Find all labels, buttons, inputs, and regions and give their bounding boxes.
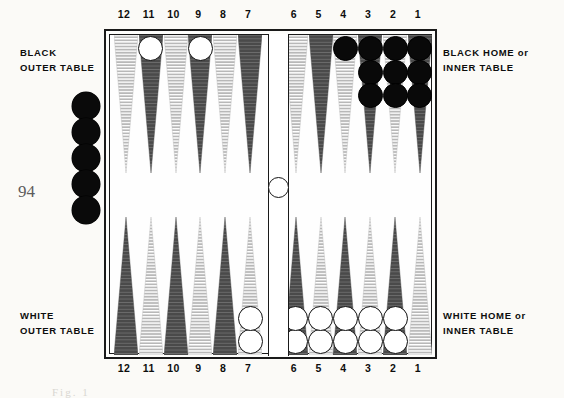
point-number-10: 10 — [165, 8, 183, 20]
bar-checker-white[interactable] — [268, 177, 289, 198]
point-number-11: 11 — [140, 362, 158, 374]
figure-caption-remnant: Fig. 1 — [52, 386, 90, 398]
backgammon-board — [104, 29, 437, 359]
checker-black-point-4[interactable] — [333, 36, 358, 61]
checker-black-point-3[interactable] — [358, 60, 383, 85]
point-number-6: 6 — [285, 362, 303, 374]
checker-black-point-3[interactable] — [358, 36, 383, 61]
label-black-home-table: BLACK HOME or INNER TABLE — [443, 45, 529, 75]
point-number-3: 3 — [359, 8, 377, 20]
point-number-7: 7 — [239, 8, 257, 20]
checker-white-point-4[interactable] — [333, 306, 358, 331]
point-number-7: 7 — [239, 362, 257, 374]
checker-white-point-3[interactable] — [358, 329, 383, 354]
label-white-home-line1: WHITE HOME or — [443, 310, 526, 321]
checker-white-point-2[interactable] — [383, 306, 408, 331]
point-top-10[interactable] — [164, 35, 188, 173]
point-bottom-8[interactable] — [213, 217, 237, 355]
checker-white-point-3[interactable] — [358, 306, 383, 331]
point-top-7[interactable] — [238, 35, 262, 173]
checker-white-point-7[interactable] — [238, 306, 263, 331]
checker-black-point-2[interactable] — [383, 60, 408, 85]
point-number-1: 1 — [409, 362, 427, 374]
point-number-12: 12 — [115, 362, 133, 374]
point-number-2: 2 — [384, 8, 402, 20]
point-number-8: 8 — [214, 362, 232, 374]
checker-white-point-5[interactable] — [308, 329, 333, 354]
point-number-4: 4 — [334, 8, 352, 20]
checker-black-point-3[interactable] — [358, 83, 383, 108]
point-number-5: 5 — [310, 8, 328, 20]
label-white-outer-table: WHITE OUTER TABLE — [20, 308, 95, 338]
point-number-4: 4 — [334, 362, 352, 374]
backgammon-diagram-page: BLACK OUTER TABLE WHITE OUTER TABLE BLAC… — [0, 0, 564, 398]
checker-white-point-9[interactable] — [188, 36, 213, 61]
point-bottom-9[interactable] — [188, 217, 212, 355]
label-black-home-line2: INNER TABLE — [443, 60, 529, 75]
label-white-outer-line1: WHITE — [20, 310, 54, 321]
label-black-outer-table: BLACK OUTER TABLE — [20, 45, 95, 75]
label-white-home-table: WHITE HOME or INNER TABLE — [443, 308, 526, 338]
point-number-8: 8 — [214, 8, 232, 20]
checker-black-point-2[interactable] — [383, 36, 408, 61]
point-bottom-10[interactable] — [164, 217, 188, 355]
offboard-checker-black[interactable] — [72, 196, 100, 224]
label-black-outer-line2: OUTER TABLE — [20, 60, 95, 75]
checker-white-point-5[interactable] — [308, 306, 333, 331]
point-number-rail-top: 121110987654321 — [0, 8, 564, 22]
page-number: 94 — [18, 182, 35, 202]
point-number-10: 10 — [165, 362, 183, 374]
point-top-5[interactable] — [309, 35, 333, 173]
label-black-outer-line1: BLACK — [20, 47, 57, 58]
offboard-checker-black[interactable] — [72, 92, 100, 120]
checker-white-point-4[interactable] — [333, 329, 358, 354]
point-top-12[interactable] — [114, 35, 138, 173]
point-number-1: 1 — [409, 8, 427, 20]
checker-black-point-1[interactable] — [407, 60, 432, 85]
board-playing-surface — [109, 34, 432, 354]
point-number-12: 12 — [115, 8, 133, 20]
offboard-checker-black[interactable] — [72, 118, 100, 146]
offboard-checker-black[interactable] — [72, 170, 100, 198]
point-top-8[interactable] — [213, 35, 237, 173]
checker-black-point-2[interactable] — [383, 83, 408, 108]
point-bottom-1[interactable] — [408, 217, 432, 355]
point-number-5: 5 — [310, 362, 328, 374]
checker-white-point-7[interactable] — [238, 329, 263, 354]
point-bottom-11[interactable] — [139, 217, 163, 355]
offboard-checker-black[interactable] — [72, 144, 100, 172]
point-number-6: 6 — [285, 8, 303, 20]
checker-white-point-2[interactable] — [383, 329, 408, 354]
label-white-home-line2: INNER TABLE — [443, 323, 526, 338]
offboard-black-checker-stack — [72, 92, 102, 222]
point-number-3: 3 — [359, 362, 377, 374]
point-number-9: 9 — [189, 362, 207, 374]
point-number-9: 9 — [189, 8, 207, 20]
center-bar — [268, 34, 289, 356]
point-number-rail-bottom: 121110987654321 — [0, 362, 564, 376]
point-number-2: 2 — [384, 362, 402, 374]
label-white-outer-line2: OUTER TABLE — [20, 323, 95, 338]
label-black-home-line1: BLACK HOME or — [443, 47, 529, 58]
point-bottom-12[interactable] — [114, 217, 138, 355]
point-number-11: 11 — [140, 8, 158, 20]
